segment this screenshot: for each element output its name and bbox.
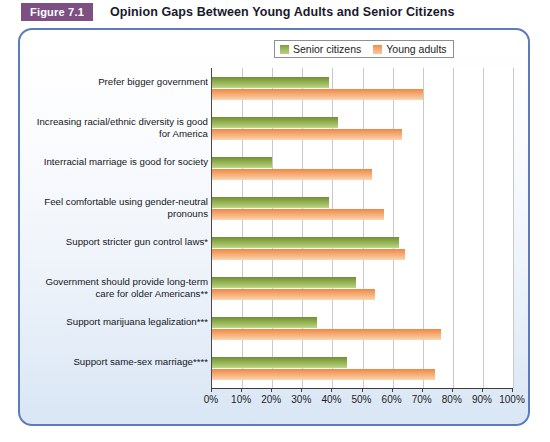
gridline [423, 68, 424, 388]
bar-young-adults [212, 369, 435, 380]
category-label: Feel comfortable using gender-neutral pr… [32, 196, 208, 219]
bar-young-adults [212, 89, 423, 100]
legend-item-young-adults: Young adults [373, 43, 446, 55]
category-label: Interracial marriage is good for society [32, 156, 208, 168]
legend-swatch-orange-icon [373, 45, 382, 54]
x-axis-tick [211, 388, 212, 392]
x-axis-tick [392, 388, 393, 392]
category-label: Support same-sex marriage**** [32, 356, 208, 368]
figure-header: Figure 7.1 Opinion Gaps Between Young Ad… [0, 0, 550, 24]
category-label: Government should provide long-term care… [32, 276, 208, 299]
x-axis-tick [422, 388, 423, 392]
bar-chart: 0%10%20%30%40%50%60%70%80%90%100%Prefer … [20, 68, 530, 418]
gridline [483, 68, 484, 388]
category-label: Increasing racial/ethnic diversity is go… [32, 116, 208, 139]
gridline [453, 68, 454, 388]
x-axis-tick-label: 30% [291, 394, 311, 405]
figure-container: Figure 7.1 Opinion Gaps Between Young Ad… [0, 0, 550, 442]
x-axis-tick-label: 80% [442, 394, 462, 405]
bar-senior-citizens [212, 197, 329, 208]
category-label: Support stricter gun control laws* [32, 236, 208, 248]
figure-number-badge: Figure 7.1 [21, 3, 93, 21]
x-axis-tick [482, 388, 483, 392]
bar-young-adults [212, 129, 402, 140]
chart-panel: Senior citizens Young adults 0%10%20%30%… [18, 28, 530, 426]
legend-label-young-adults: Young adults [386, 43, 446, 55]
bar-senior-citizens [212, 157, 272, 168]
x-axis-tick-label: 20% [261, 394, 281, 405]
gridline [513, 68, 514, 388]
x-axis-tick [331, 388, 332, 392]
x-axis-tick [362, 388, 363, 392]
bar-young-adults [212, 209, 384, 220]
x-axis-tick [512, 388, 513, 392]
x-axis-tick-label: 50% [351, 394, 371, 405]
legend-swatch-green-icon [280, 45, 289, 54]
gridline [363, 68, 364, 388]
bar-senior-citizens [212, 357, 347, 368]
bar-senior-citizens [212, 317, 317, 328]
x-axis-tick [241, 388, 242, 392]
bar-senior-citizens [212, 117, 338, 128]
bar-senior-citizens [212, 237, 399, 248]
figure-title: Opinion Gaps Between Young Adults and Se… [110, 5, 455, 19]
category-label: Support marijuana legalization*** [32, 316, 208, 328]
x-axis-tick-label: 100% [499, 394, 525, 405]
x-axis-tick-label: 60% [382, 394, 402, 405]
plot-area [211, 68, 514, 388]
bar-young-adults [212, 169, 372, 180]
x-axis-tick-label: 40% [321, 394, 341, 405]
legend-label-senior-citizens: Senior citizens [293, 43, 361, 55]
x-axis-tick-label: 70% [412, 394, 432, 405]
bar-young-adults [212, 329, 441, 340]
x-axis-tick-label: 0% [204, 394, 218, 405]
bar-young-adults [212, 249, 405, 260]
gridline [393, 68, 394, 388]
x-axis-tick [452, 388, 453, 392]
bar-young-adults [212, 289, 375, 300]
x-axis-tick-label: 10% [231, 394, 251, 405]
x-axis-tick [271, 388, 272, 392]
chart-legend: Senior citizens Young adults [274, 40, 454, 58]
bar-senior-citizens [212, 277, 356, 288]
bar-senior-citizens [212, 77, 329, 88]
legend-item-senior-citizens: Senior citizens [280, 43, 361, 55]
x-axis-tick-label: 90% [472, 394, 492, 405]
x-axis-tick [301, 388, 302, 392]
category-label: Prefer bigger government [32, 76, 208, 88]
